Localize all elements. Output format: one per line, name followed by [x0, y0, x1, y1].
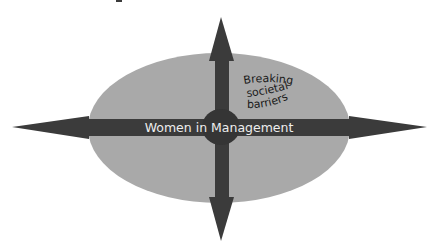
women-in-management-diagram: Women in Management Breaking societal ba… — [0, 0, 437, 252]
right-arrowhead-icon — [349, 116, 427, 139]
center-label: Women in Management — [145, 120, 294, 135]
up-arrowhead-icon — [209, 17, 234, 61]
down-arrowhead-icon — [209, 197, 234, 241]
left-arrowhead-icon — [12, 116, 89, 139]
cropped-title-fragment — [116, 0, 122, 2]
